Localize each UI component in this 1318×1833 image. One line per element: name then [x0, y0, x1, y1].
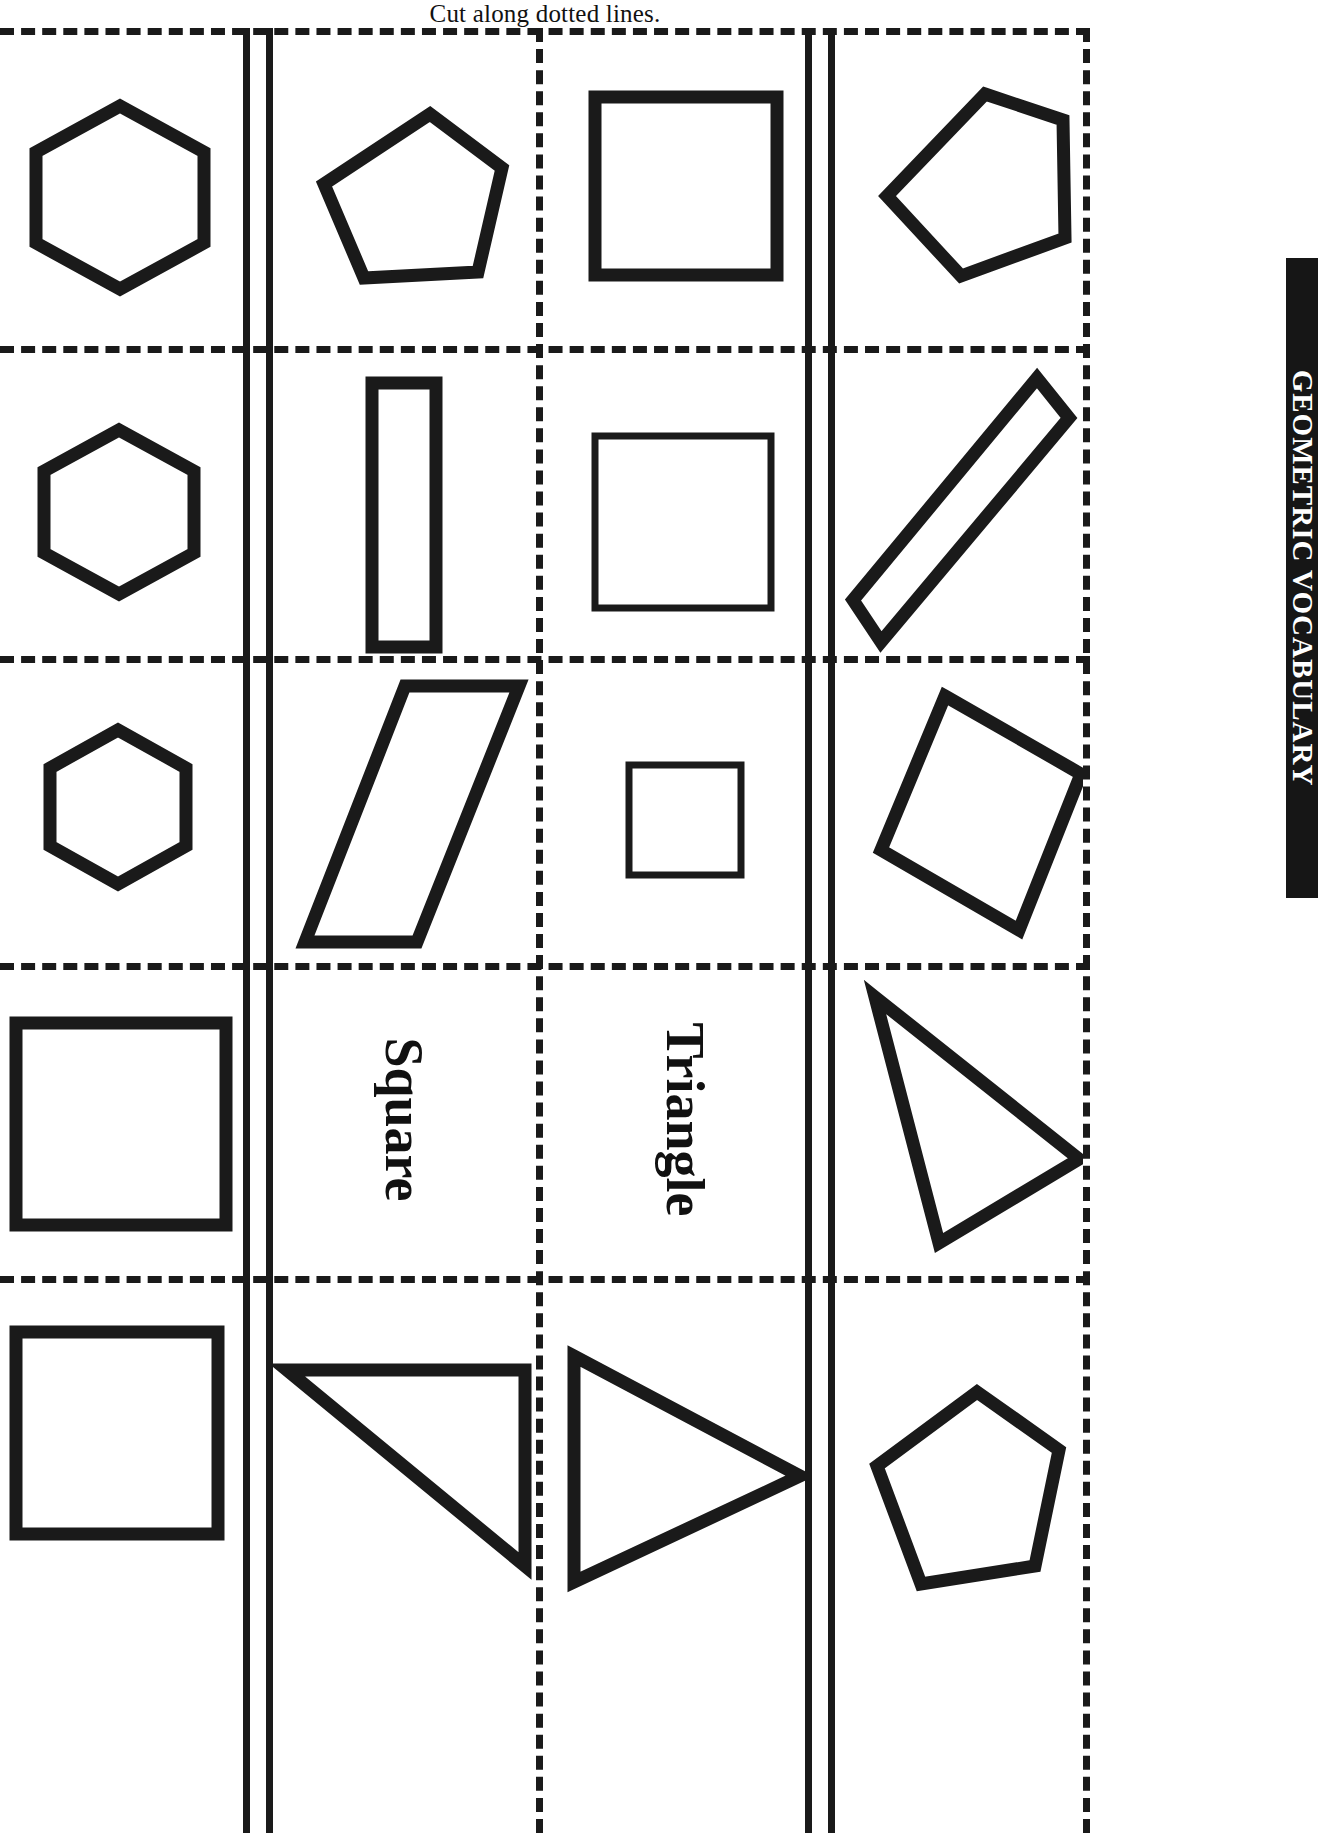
fold-line-double	[805, 28, 835, 1833]
shape-pentagon	[877, 86, 1072, 286]
shape-triangle-obtuse	[279, 1362, 533, 1574]
card-r5c2[interactable]	[273, 1276, 536, 1833]
card-r1c3[interactable]	[566, 28, 805, 346]
card-r5c3[interactable]	[566, 1276, 805, 1833]
worksheet-grid: Square Triangle	[0, 28, 1090, 1833]
card-r5c4[interactable]	[835, 1276, 1083, 1833]
shape-pentagon	[869, 1384, 1069, 1594]
card-r4c3[interactable]: Triangle	[566, 963, 805, 1276]
shape-rectangle	[365, 376, 443, 654]
cut-line-vertical	[536, 28, 543, 1833]
card-r3c4[interactable]	[835, 656, 1083, 963]
shape-hexagon	[38, 424, 200, 600]
card-r1c1[interactable]	[0, 28, 243, 346]
card-r4c4[interactable]	[835, 963, 1083, 1276]
card-r2c1[interactable]	[0, 346, 243, 656]
shape-triangle-right	[853, 989, 1083, 1251]
side-tab: GEOMETRIC VOCABULARY	[1286, 258, 1318, 898]
card-r5c1[interactable]	[0, 1276, 243, 1833]
shape-parallelogram	[297, 678, 525, 950]
word-label-triangle: Triangle	[566, 1000, 805, 1239]
shape-triangle-isosceles	[566, 1348, 805, 1590]
card-r4c2[interactable]: Square	[273, 963, 536, 1276]
card-r1c2[interactable]	[273, 28, 536, 346]
card-r3c3[interactable]	[566, 656, 805, 963]
card-r2c2[interactable]	[273, 346, 536, 656]
fold-line-double	[243, 28, 273, 1833]
shape-square	[588, 90, 784, 282]
card-r4c1[interactable]	[0, 963, 243, 1276]
shape-rectangle-rotated	[845, 370, 1075, 652]
shape-pentagon	[318, 106, 508, 286]
word-label-square: Square	[273, 988, 536, 1251]
card-r3c1[interactable]	[0, 656, 243, 963]
page-header: Cut along dotted lines.	[0, 0, 1090, 28]
card-r2c3[interactable]	[566, 346, 805, 656]
shape-hexagon	[30, 100, 210, 295]
cut-line-vertical	[1083, 28, 1090, 1833]
shape-square	[8, 1324, 226, 1542]
shape-square	[590, 431, 776, 613]
shape-parallelogram-rotated	[873, 688, 1083, 938]
shape-hexagon	[44, 724, 192, 890]
card-r3c2[interactable]	[273, 656, 536, 963]
header-text: Cut along dotted lines.	[430, 0, 661, 28]
side-tab-text: GEOMETRIC VOCABULARY	[1286, 370, 1318, 787]
card-r2c4[interactable]	[835, 346, 1083, 656]
shape-square	[8, 1015, 234, 1233]
card-r1c4[interactable]	[835, 28, 1083, 346]
shape-square	[624, 760, 746, 880]
